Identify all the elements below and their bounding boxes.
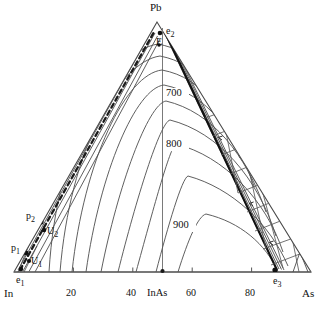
dashed-invariant-line [20, 32, 154, 270]
point-label-p1-sub: 1 [16, 247, 20, 256]
isotherm-contours [49, 44, 288, 272]
isotherm-label-700: 700 [166, 88, 182, 99]
tick-label-80: 80 [245, 288, 255, 298]
point-label-e3-sub: 3 [277, 280, 281, 289]
point-marker-e1 [19, 267, 23, 271]
point-label-p2: p2 [26, 211, 35, 224]
point-label-p1: p1 [11, 243, 20, 256]
isotherm-line [72, 70, 240, 272]
point-label-e2-sub: 2 [170, 30, 174, 39]
point-label-e2: e2 [166, 26, 174, 39]
isotherm-label-knockouts [165, 88, 196, 232]
point-label-e1: e1 [16, 275, 24, 288]
compound-label-inas: InAs [147, 288, 167, 299]
point-label-U2: U2 [47, 226, 58, 239]
isotherm-line [86, 85, 254, 272]
point-label-E: E [156, 37, 162, 47]
corner-label-as: As [302, 288, 314, 299]
isotherm-label-900: 900 [173, 220, 189, 231]
point-marker-U2 [42, 228, 47, 233]
boundary-line [18, 30, 152, 270]
point-label-U2-sub: 2 [54, 230, 58, 239]
point-marker-e2 [158, 31, 163, 36]
inas-compound-marker [160, 269, 164, 273]
corner-label-pb: Pb [150, 2, 162, 13]
tick-label-40: 40 [126, 288, 136, 298]
isotherm-label-800: 800 [166, 139, 182, 150]
point-label-U1: U1 [31, 256, 42, 269]
point-label-U1-sub: 1 [38, 260, 42, 269]
corner-label-in: In [4, 288, 13, 299]
tick-label-20: 20 [66, 288, 76, 298]
point-marker-e3 [272, 267, 277, 272]
boundary-line [23, 33, 155, 271]
point-label-p2-sub: 2 [31, 215, 35, 224]
point-label-e3: e3 [273, 276, 281, 289]
isotherm-line [60, 56, 226, 272]
diagram-canvas [0, 0, 323, 315]
ternary-phase-diagram: Pb In As 20 40 60 80 InAs 700 800 900 e2… [0, 0, 323, 315]
point-label-e1-sub: 1 [20, 279, 24, 288]
isotherm-line [136, 144, 283, 272]
tick-label-60: 60 [186, 288, 196, 298]
